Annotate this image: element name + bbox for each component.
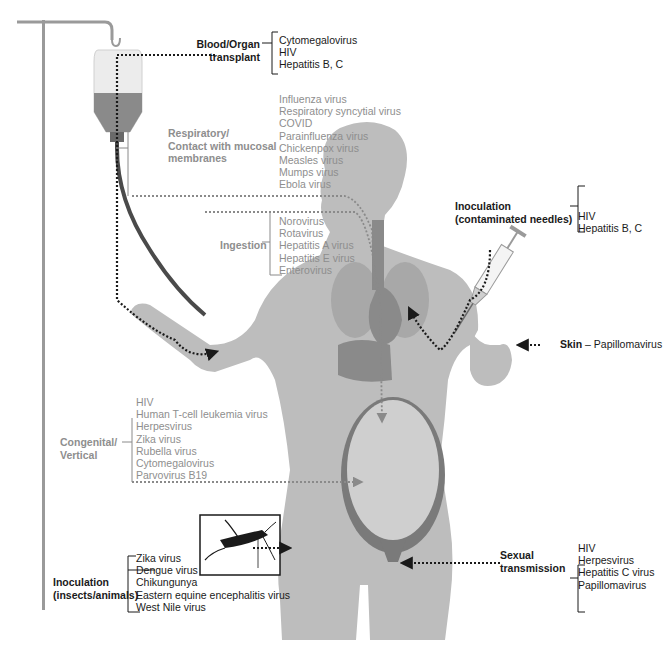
virus-item: Hepatitis E virus [279,252,355,264]
virus-item: Cytomegalovirus [279,34,357,46]
virus-item: HIV [578,210,642,222]
virus-item: Human T-cell leukemia virus [136,408,268,420]
virus-list-inoculation-insects: Zika virus Dengue virus Chikungunya East… [136,552,290,613]
virus-item: Influenza virus [279,93,401,105]
route-label-inoculation-needles: Inoculation (contaminated needles) [455,200,572,225]
virus-item: Chikungunya [136,576,290,588]
route-label-line: Vertical [60,449,117,462]
virus-item: COVID [279,117,401,129]
virus-item: Zika virus [136,433,268,445]
virus-item: Zika virus [136,552,290,564]
route-label-line: Inoculation [53,576,138,589]
virus-item: Norovirus [279,215,355,227]
virus-item: HIV [578,542,654,554]
virus-item: Papillomavirus [578,579,654,591]
virus-item: Dengue virus [136,564,290,576]
virus-item: Hepatitis C virus [578,566,654,578]
virus-item: West Nile virus [136,601,290,613]
virus-list-congenital: HIV Human T-cell leukemia virus Herpesvi… [136,396,268,481]
route-label-blood-organ: Blood/Organ transplant [180,38,260,63]
route-label-line: transplant [180,51,260,64]
route-label-inoculation-insects: Inoculation (insects/animals) [53,576,138,601]
virus-list-ingestion: Norovirus Rotavirus Hepatitis A virus He… [279,215,355,276]
virus-item: Measles virus [279,154,401,166]
route-label-line: Sexual [500,549,565,562]
virus-item: Mumps virus [279,166,401,178]
route-label-skin-bold: Skin [560,338,582,350]
route-label-line: (contaminated needles) [455,213,572,226]
virus-item: Rotavirus [279,227,355,239]
virus-item: Parvovirus B19 [136,469,268,481]
virus-item: Ebola virus [279,178,401,190]
route-label-skin-virus: – Papillomavirus [582,338,662,350]
route-label-line: Blood/Organ [180,38,260,51]
route-label-line: (insects/animals) [53,589,138,602]
virus-item: Respiratory syncytial virus [279,105,401,117]
virus-item: Enterovirus [279,264,355,276]
virus-item: Cytomegalovirus [136,457,268,469]
route-label-congenital: Congenital/ Vertical [60,436,117,461]
virus-list-blood-organ: Cytomegalovirus HIV Hepatitis B, C [279,34,357,71]
virus-item: Rubella virus [136,445,268,457]
virus-item: Chickenpox virus [279,142,401,154]
route-label-line: Congenital/ [60,436,117,449]
route-label-line: Contact with mucosal [168,140,277,153]
virus-list-respiratory: Influenza virus Respiratory syncytial vi… [279,93,401,191]
virus-item: Hepatitis B, C [279,58,357,70]
route-label-ingestion: Ingestion [220,239,267,252]
route-label-line: Inoculation [455,200,572,213]
virus-item: Parainfluenza virus [279,130,401,142]
route-label-skin: Skin – Papillomavirus [560,338,662,351]
virus-list-sexual: HIV Herpesvirus Hepatitis C virus Papill… [578,542,654,591]
virus-item: Hepatitis B, C [578,222,642,234]
route-label-respiratory: Respiratory/ Contact with mucosal membra… [168,127,277,165]
virus-item: Eastern equine encephalitis virus [136,589,290,601]
virus-item: Hepatitis A virus [279,239,355,251]
route-label-line: membranes [168,152,277,165]
virus-item: Herpesvirus [136,420,268,432]
route-label-line: Ingestion [220,239,267,252]
virus-item: HIV [136,396,268,408]
iv-bag-icon [94,50,205,315]
virus-item: HIV [279,46,357,58]
virus-item: Herpesvirus [578,554,654,566]
route-label-line: transmission [500,562,565,575]
route-label-line: Respiratory/ [168,127,277,140]
virus-list-inoculation-needles: HIV Hepatitis B, C [578,210,642,234]
route-label-sexual: Sexual transmission [500,549,565,574]
